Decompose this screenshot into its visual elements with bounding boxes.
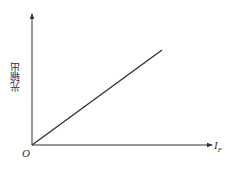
data-line bbox=[32, 50, 162, 145]
origin-label: O bbox=[22, 147, 30, 159]
x-axis-label: IF bbox=[214, 139, 222, 154]
chart-canvas bbox=[0, 0, 227, 170]
y-axis-label: 光输出 bbox=[8, 62, 23, 92]
x-axis-label-sub: F bbox=[218, 146, 222, 154]
